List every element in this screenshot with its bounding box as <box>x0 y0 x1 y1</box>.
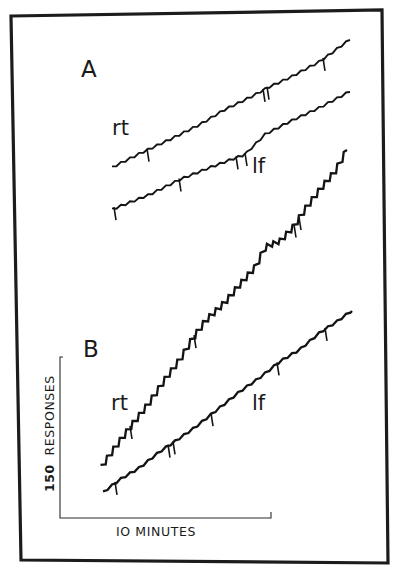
record-b-lf <box>103 311 352 491</box>
reinforcement-pip-mark <box>299 217 301 230</box>
y-scale-unit: RESPONSES <box>42 375 57 455</box>
record-a-rt <box>112 40 350 166</box>
reinforcement-pip-mark <box>325 328 327 341</box>
series-label-a-rt: rt <box>112 116 129 140</box>
y-scale-label: 150 RESPONSES <box>42 375 57 492</box>
series-label-a-lf: lf <box>252 154 266 178</box>
cumulative-record-figure: A rt lf B rt lf 150 RESPONSES IO MINUTES <box>0 0 396 574</box>
series-label-b-rt: rt <box>111 391 128 415</box>
reinforcement-pip-mark <box>147 149 149 162</box>
curves-layer <box>101 40 353 495</box>
scale-bar <box>60 357 271 518</box>
y-scale-value: 150 <box>42 464 57 492</box>
reinforcement-pip-mark <box>294 225 296 238</box>
panel-label-b: B <box>83 336 99 362</box>
record-b-rt <box>101 150 348 465</box>
figure-frame <box>11 10 388 563</box>
reinforcement-pip-mark <box>173 441 175 454</box>
reinforcement-pip-mark <box>236 156 238 169</box>
reinforcement-pip-mark <box>263 89 265 102</box>
panel-label-a: A <box>81 56 97 82</box>
reinforcement-pip-mark <box>211 413 213 426</box>
series-label-b-lf: lf <box>252 391 266 415</box>
reinforcement-pip-mark <box>245 153 247 166</box>
x-scale-label: IO MINUTES <box>116 524 196 539</box>
